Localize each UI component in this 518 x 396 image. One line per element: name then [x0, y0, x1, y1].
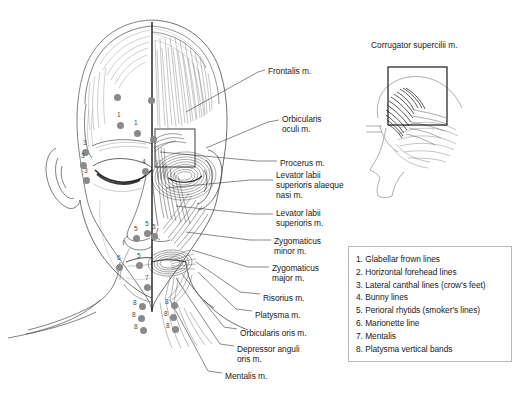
legend-item: 5. Perioral rhytids (smoker's lines) [356, 304, 510, 317]
corrugator-inset-title: Corrugator supercilii m. [371, 40, 458, 50]
muscle-label: Frontalis m. [268, 66, 311, 76]
muscle-label: Procerus m. [280, 158, 325, 168]
legend-item: 8. Platysma vertical bands [356, 343, 510, 356]
legend-item-number: 2. [356, 267, 363, 277]
legend-box: 1. Glabellar frown lines2. Horizontal fo… [348, 246, 512, 362]
legend-item: 4. Bunny lines [356, 291, 510, 304]
legend-item-label: Platysma vertical bands [363, 344, 453, 354]
legend-item: 7. Mentalis [356, 330, 510, 343]
legend-item-number: 6. [356, 318, 363, 328]
legend-item-number: 7. [356, 331, 363, 341]
legend-item-label: Lateral canthal lines (crow's feet) [363, 280, 486, 290]
legend-item-label: Mentalis [363, 331, 396, 341]
legend-item-number: 1. [356, 254, 363, 264]
legend-item-label: Perioral rhytids (smoker's lines) [363, 305, 480, 315]
legend-item: 1. Glabellar frown lines [356, 253, 510, 266]
legend-item-label: Horizontal forehead lines [363, 267, 457, 277]
legend-item-label: Bunny lines [363, 292, 408, 302]
legend-item-number: 4. [356, 292, 363, 302]
legend-list: 1. Glabellar frown lines2. Horizontal fo… [356, 253, 510, 355]
muscle-label: Zygomaticus minor m. [274, 236, 321, 256]
legend-item: 3. Lateral canthal lines (crow's feet) [356, 279, 510, 292]
muscle-label: Platysma m. [255, 310, 301, 320]
muscle-label: Orbicularis oris m. [240, 328, 307, 338]
legend-item-label: Marionette line [363, 318, 419, 328]
muscle-label: Depressor anguli oris m. [237, 344, 300, 364]
legend-item-number: 3. [356, 280, 363, 290]
muscle-label: Levator labii superioris alaeque nasi m. [276, 170, 344, 201]
legend-item-number: 8. [356, 344, 363, 354]
legend-item-label: Glabellar frown lines [363, 254, 440, 264]
muscle-label: Risorius m. [263, 293, 304, 303]
legend-item: 6. Marionette line [356, 317, 510, 330]
muscle-label: Mentalis m. [225, 371, 267, 381]
muscle-label: Zygomaticus major m. [272, 263, 319, 283]
legend-item: 2. Horizontal forehead lines [356, 266, 510, 279]
muscle-label: Orbicularis oculi m. [282, 114, 321, 134]
muscle-label: Levator labii superioris m. [276, 208, 323, 228]
legend-item-number: 5. [356, 305, 363, 315]
